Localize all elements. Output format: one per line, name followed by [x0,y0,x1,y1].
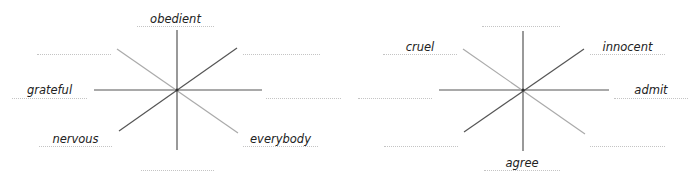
answer-slot-bottom-right[interactable] [590,132,665,147]
answer-slot-right[interactable] [266,84,341,99]
word-bottom-left: nervous [39,132,112,146]
answer-slot-bottom-left[interactable] [384,132,458,147]
word-right: admit [614,83,688,97]
word-star-diagram-left: obedient grateful nervous everybody [0,0,348,178]
word-top-right: innocent [590,40,665,54]
answer-slot-top-right[interactable] [243,40,320,55]
answer-slot-left[interactable] [358,84,432,99]
answer-slot-top[interactable] [482,12,560,27]
answer-slot-bottom[interactable] [141,156,214,171]
word-bottom: agree [484,156,560,170]
word-top-left: cruel [383,40,457,54]
word-left: grateful [12,83,87,97]
word-top: obedient [137,12,214,26]
word-star-diagram-right: cruel innocent admit agree [348,0,696,178]
answer-slot-top-left[interactable] [37,40,111,55]
word-bottom-right: everybody [243,132,318,146]
